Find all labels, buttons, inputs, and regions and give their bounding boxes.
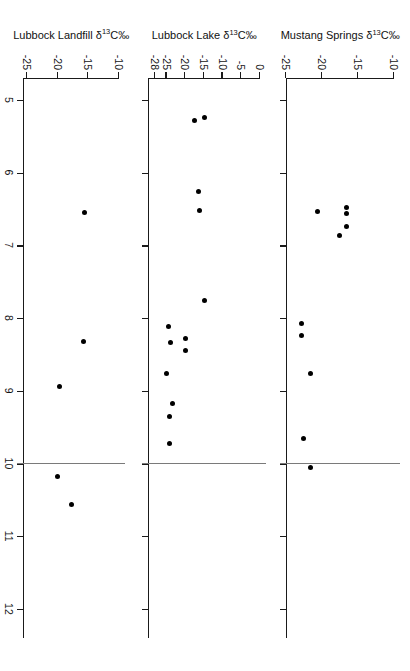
x-tick-lubbock-landfill-1 xyxy=(17,173,23,174)
y-tick-mustang-springs-3 xyxy=(285,72,286,78)
reference-line-mustang-springs xyxy=(280,463,400,464)
y-axis-title-mustang-springs: Mustang Springs δ13C‰ xyxy=(281,27,400,41)
x-tick-label-7: 12 xyxy=(4,603,15,615)
data-point xyxy=(302,436,307,441)
y-axis-line-lubbock-lake xyxy=(148,78,260,79)
data-point xyxy=(299,321,304,326)
y-tick-label-lubbock-landfill-3: -25 xyxy=(22,55,33,70)
x-tick-lubbock-landfill-6 xyxy=(17,536,23,537)
y-tick-label-mustang-springs-2: -20 xyxy=(317,55,328,70)
panel-lubbock-landfill: -10-15-20-2556789101112 xyxy=(23,78,119,638)
x-tick-lubbock-lake-3 xyxy=(142,318,148,319)
x-tick-mustang-springs-6 xyxy=(280,536,286,537)
data-point xyxy=(57,384,62,389)
x-tick-lubbock-landfill-0 xyxy=(17,100,23,101)
plot-area-lubbock-lake: 0-5-10-15-20-25-28 xyxy=(148,78,260,638)
x-axis-line-mustang-springs xyxy=(286,78,287,638)
x-axis-line-lubbock-landfill xyxy=(23,78,24,638)
x-tick-label-1: 6 xyxy=(4,170,15,176)
y-axis-title-lubbock-landfill: Lubbock Landfill δ13C‰ xyxy=(13,27,129,41)
data-point xyxy=(69,502,74,507)
y-tick-mustang-springs-2 xyxy=(321,72,322,78)
data-point xyxy=(308,371,313,376)
data-point xyxy=(196,189,201,194)
x-tick-label-0: 5 xyxy=(4,97,15,103)
data-point xyxy=(183,336,188,341)
data-point xyxy=(82,210,87,215)
data-point xyxy=(344,224,349,229)
data-point xyxy=(170,401,175,406)
y-axis-line-mustang-springs xyxy=(286,78,394,79)
data-point xyxy=(299,333,304,338)
y-tick-label-mustang-springs-1: -15 xyxy=(353,55,364,70)
y-tick-label-lubbock-lake-3: -15 xyxy=(199,55,210,70)
data-point xyxy=(164,371,169,376)
data-point xyxy=(167,441,172,446)
data-point xyxy=(197,208,202,213)
x-tick-label-3: 8 xyxy=(4,315,15,321)
x-tick-lubbock-lake-4 xyxy=(142,391,148,392)
y-tick-label-lubbock-lake-0: 0 xyxy=(255,64,266,70)
x-tick-lubbock-lake-2 xyxy=(142,245,148,246)
x-tick-lubbock-landfill-4 xyxy=(17,391,23,392)
y-tick-lubbock-lake-4 xyxy=(184,72,185,78)
y-tick-label-lubbock-lake-5: -25 xyxy=(161,55,172,70)
y-axis-title-lubbock-lake: Lubbock Lake δ13C‰ xyxy=(152,27,257,41)
figure-rotator: Mustang Springs δ13C‰-10-15-20-25Lubbock… xyxy=(0,0,410,671)
x-tick-mustang-springs-0 xyxy=(280,100,286,101)
data-point xyxy=(202,298,207,303)
data-point xyxy=(183,348,188,353)
y-tick-lubbock-lake-0 xyxy=(259,72,260,78)
panel-mustang-springs: -10-15-20-25 xyxy=(286,78,394,638)
y-axis-line-lubbock-landfill xyxy=(23,78,119,79)
y-tick-lubbock-lake-5 xyxy=(165,72,166,78)
y-tick-mustang-springs-0 xyxy=(393,72,394,78)
y-tick-lubbock-lake-6 xyxy=(154,72,155,78)
x-tick-label-6: 11 xyxy=(4,531,15,542)
data-point xyxy=(315,209,320,214)
reference-line-lubbock-lake xyxy=(142,463,266,464)
x-tick-label-4: 9 xyxy=(4,388,15,394)
x-tick-mustang-springs-3 xyxy=(280,318,286,319)
x-tick-lubbock-lake-0 xyxy=(142,100,148,101)
plot-area-lubbock-landfill: -10-15-20-2556789101112 xyxy=(23,78,119,638)
x-tick-lubbock-landfill-3 xyxy=(17,318,23,319)
data-point xyxy=(168,340,173,345)
x-tick-lubbock-landfill-2 xyxy=(17,245,23,246)
x-tick-lubbock-landfill-7 xyxy=(17,609,23,610)
panel-lubbock-lake: 0-5-10-15-20-25-28 xyxy=(148,78,260,638)
x-tick-label-5: 10 xyxy=(4,458,15,470)
y-tick-lubbock-landfill-3 xyxy=(26,72,27,78)
y-tick-label-lubbock-landfill-2: -20 xyxy=(53,55,64,70)
y-tick-lubbock-landfill-2 xyxy=(57,72,58,78)
y-tick-label-lubbock-lake-1: -5 xyxy=(236,61,247,70)
x-tick-lubbock-lake-1 xyxy=(142,173,148,174)
y-tick-mustang-springs-1 xyxy=(357,72,358,78)
x-tick-lubbock-lake-7 xyxy=(142,609,148,610)
y-tick-lubbock-landfill-0 xyxy=(118,72,119,78)
y-tick-label-lubbock-landfill-1: -15 xyxy=(83,55,94,70)
data-point xyxy=(192,118,197,123)
data-point xyxy=(81,339,86,344)
y-tick-lubbock-lake-3 xyxy=(203,72,204,78)
reference-line-lubbock-landfill xyxy=(17,463,125,464)
x-tick-mustang-springs-4 xyxy=(280,391,286,392)
y-tick-lubbock-landfill-1 xyxy=(87,72,88,78)
x-tick-lubbock-lake-6 xyxy=(142,536,148,537)
y-tick-label-lubbock-lake-2: -10 xyxy=(217,55,228,70)
plot-area-mustang-springs: -10-15-20-25 xyxy=(286,78,394,638)
y-tick-label-mustang-springs-0: -10 xyxy=(389,55,400,70)
y-tick-lubbock-lake-1 xyxy=(240,72,241,78)
data-point xyxy=(344,205,349,210)
y-tick-label-lubbock-lake-4: -20 xyxy=(180,55,191,70)
x-axis-line-lubbock-lake xyxy=(148,78,149,638)
isotope-scatter-figure: Mustang Springs δ13C‰-10-15-20-25Lubbock… xyxy=(0,0,410,671)
x-tick-mustang-springs-2 xyxy=(280,245,286,246)
data-point xyxy=(344,211,349,216)
data-point xyxy=(166,324,171,329)
data-point xyxy=(167,414,172,419)
y-tick-label-lubbock-landfill-0: -10 xyxy=(114,55,125,70)
y-tick-label-mustang-springs-3: -25 xyxy=(281,55,292,70)
data-point xyxy=(202,115,207,120)
x-tick-mustang-springs-7 xyxy=(280,609,286,610)
